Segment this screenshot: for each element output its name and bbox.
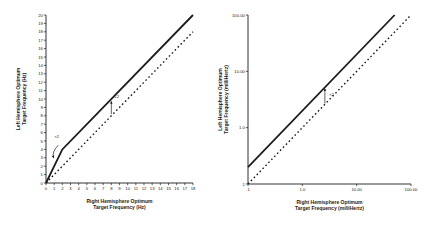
- y-tick-label: 20: [38, 13, 43, 18]
- y-tick-label: 1.0: [239, 125, 245, 130]
- x-tick-label: 0: [45, 186, 48, 191]
- y-tick-label: 9: [40, 105, 43, 110]
- x-tick-label: 5: [86, 186, 89, 191]
- y-tick-label: 17: [38, 38, 43, 43]
- x-axis-title: Right Hemisphere OptimumTarget Frequency…: [86, 198, 153, 211]
- y-tick-label: 2: [40, 164, 43, 169]
- dual-frequency-charts: 0123456789101112131415161718012345678910…: [0, 0, 435, 225]
- x-tick-label: 1: [53, 186, 56, 191]
- x-axis-title: Right Hemisphere OptimumTarget Frequency…: [295, 199, 364, 212]
- y-tick-label: 10.00: [234, 69, 245, 74]
- x-tick-label: 9: [118, 186, 121, 191]
- left-chart-hz: 0123456789101112131415161718012345678910…: [15, 13, 196, 211]
- x-tick-label: 11: [134, 186, 139, 191]
- y-tick-label: 0: [40, 181, 43, 186]
- x-tick-label: 13: [150, 186, 155, 191]
- x-tick-label: .1: [246, 187, 250, 192]
- x-tick-label: 17: [182, 186, 187, 191]
- y-tick-label: 16: [38, 46, 43, 51]
- right-chart-millihertz: .11.010.00100.00.11.010.00100.00×2Left H…: [217, 13, 418, 212]
- x-tick-label: 12: [142, 186, 147, 191]
- y-tick-label: 8: [40, 113, 43, 118]
- y-tick-label: 15: [38, 55, 43, 60]
- y-axis-title: Left Hemisphere OptimumTarget Frequency …: [217, 65, 229, 134]
- x-tick-label: 15: [166, 186, 171, 191]
- y-tick-label: .1: [241, 182, 245, 187]
- series-identity-line-dashed: [248, 15, 411, 184]
- y-tick-label: 1: [40, 172, 43, 177]
- x-tick-label: 14: [158, 186, 163, 191]
- x-tick-label: 2: [61, 186, 64, 191]
- x-tick-label: 10.00: [351, 187, 362, 192]
- x-tick-label: 18: [191, 186, 196, 191]
- series-left-equals-twice-right-solid: [248, 15, 395, 167]
- y-tick-label: 100.00: [232, 13, 245, 18]
- annotation-arrow: [53, 145, 58, 158]
- x-tick-label: 8: [110, 186, 113, 191]
- x-tick-label: 4: [77, 186, 80, 191]
- x-tick-label: 1.0: [299, 187, 305, 192]
- x-tick-label: 6: [94, 186, 97, 191]
- y-axis-title: Left Hemisphere OptimumTarget Frequency …: [15, 67, 27, 130]
- y-tick-label: 3: [40, 155, 43, 160]
- y-tick-label: 13: [38, 71, 43, 76]
- series-identity-line-dashed: [46, 32, 193, 183]
- y-tick-label: 6: [40, 130, 43, 135]
- y-tick-label: 19: [38, 21, 43, 26]
- y-tick-label: 11: [38, 88, 43, 93]
- x-tick-label: 100.00: [405, 187, 418, 192]
- y-tick-label: 5: [40, 139, 43, 144]
- annotation-text: ×2: [329, 92, 334, 97]
- x-tick-label: 3: [69, 186, 72, 191]
- x-tick-label: 7: [102, 186, 105, 191]
- y-tick-label: 18: [38, 29, 43, 34]
- figure-canvas: 0123456789101112131415161718012345678910…: [0, 0, 435, 225]
- x-tick-label: 10: [125, 186, 130, 191]
- y-tick-label: 14: [38, 63, 43, 68]
- annotation-text: ×2: [54, 134, 59, 139]
- y-tick-label: 7: [40, 122, 43, 127]
- y-tick-label: 4: [40, 147, 43, 152]
- series-left-optimum-rule-solid: [46, 15, 193, 183]
- x-tick-label: 16: [174, 186, 179, 191]
- y-tick-label: 12: [38, 80, 43, 85]
- annotation-text: +2: [114, 94, 119, 99]
- y-tick-label: 10: [38, 97, 43, 102]
